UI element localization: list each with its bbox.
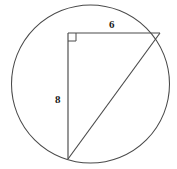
horizontal-leg-label: 6	[109, 19, 115, 30]
right-angle-marker-icon	[68, 33, 76, 41]
vertical-leg-label: 8	[55, 94, 61, 105]
circumscribed-circle	[12, 5, 170, 163]
geometry-figure: 6 8	[0, 0, 177, 169]
geometry-canvas	[0, 0, 177, 169]
